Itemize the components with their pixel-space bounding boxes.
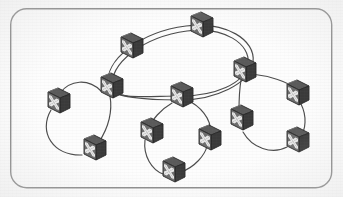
node-switch-left-lower[interactable] [84,135,106,160]
network-switch-icon [101,73,123,98]
network-switch-icon [48,88,70,113]
node-switch-bottom[interactable] [163,157,185,182]
node-switch-far-right-up[interactable] [287,80,309,105]
link-n3-n6 [60,82,101,93]
node-switch-left-hub[interactable] [101,73,123,98]
node-switch-far-right-dn[interactable] [287,127,309,152]
node-switch-right-lower[interactable] [231,105,253,130]
link-n8-n10 [145,140,163,174]
node-switch-top-center[interactable] [191,12,213,37]
network-switch-icon [287,80,309,105]
node-layer [48,12,309,182]
node-switch-center-left[interactable] [141,118,163,143]
network-switch-icon [121,33,143,58]
network-switch-icon [141,118,163,143]
network-switch-icon [171,82,193,107]
node-switch-center-right[interactable] [199,125,221,150]
network-switch-icon [231,105,253,130]
network-switch-icon [199,125,221,150]
link-n13-n11 [243,132,287,150]
network-switch-icon [287,127,309,152]
node-switch-upper-left[interactable] [121,33,143,58]
node-switch-center-hub[interactable] [171,82,193,107]
link-n6-n7 [46,110,82,155]
link-n7-n3 [99,96,111,142]
network-switch-icon [163,157,185,182]
node-switch-far-left[interactable] [48,88,70,113]
network-diagram [0,0,343,197]
network-switch-icon [84,135,106,160]
diagram-canvas [0,0,343,197]
network-switch-icon [191,12,213,37]
